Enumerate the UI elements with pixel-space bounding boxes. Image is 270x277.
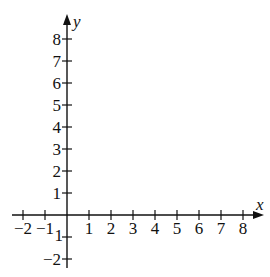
x-tick-label: 6 [195, 219, 204, 238]
x-axis-ticks: −2−112345678 [14, 210, 247, 238]
y-tick-label: 8 [53, 30, 62, 49]
y-tick-label: 5 [53, 96, 62, 115]
x-tick-label: −2 [14, 219, 32, 238]
x-tick-label: 1 [85, 219, 94, 238]
y-tick-label: 7 [53, 52, 62, 71]
y-tick-label: 6 [53, 74, 62, 93]
x-tick-label: 5 [173, 219, 182, 238]
y-tick-label: 2 [53, 162, 62, 181]
x-tick-label: −1 [36, 219, 54, 238]
x-tick-label: 7 [217, 219, 226, 238]
y-tick-label: 4 [53, 118, 62, 137]
x-tick-label: 2 [107, 219, 116, 238]
y-tick-label: 1 [53, 184, 62, 203]
y-axis-arrow-icon [63, 14, 71, 25]
x-tick-label: 4 [151, 219, 160, 238]
x-axis-label: x [255, 195, 264, 214]
y-axis-label: y [71, 12, 81, 31]
x-tick-label: 8 [239, 219, 248, 238]
x-tick-label: 3 [129, 219, 138, 238]
coordinate-plane: −2−112345678 −2123456781 x y [0, 0, 270, 277]
y-tick-label: 1 [55, 226, 64, 245]
y-tick-label: −2 [43, 250, 61, 269]
y-tick-label: 3 [53, 140, 62, 159]
